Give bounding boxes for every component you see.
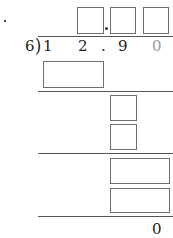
step-2-remainder-blank[interactable]	[110, 95, 137, 121]
subtraction-line-1	[38, 91, 173, 92]
dividend-decimal-point: .	[101, 39, 106, 54]
dividend-digit: 1	[43, 39, 53, 54]
quotient-decimal-point	[105, 27, 108, 30]
step-3-product-blank[interactable]	[110, 188, 170, 213]
quotient-blank-2[interactable]	[110, 7, 136, 34]
step-2-product-blank[interactable]	[110, 124, 137, 150]
quotient-blank-1[interactable]	[77, 7, 104, 34]
subtraction-line-2	[38, 153, 173, 154]
stray-mark	[4, 20, 6, 22]
step-3-remainder-blank[interactable]	[110, 158, 170, 184]
dividend-appended-zero: 0	[152, 39, 162, 54]
final-remainder: 0	[152, 222, 162, 237]
quotient-blank-3[interactable]	[143, 7, 169, 34]
divisor: 6	[25, 39, 35, 54]
division-bracket: )	[35, 37, 41, 54]
subtraction-line-3	[38, 216, 173, 217]
dividend-digit: 9	[118, 39, 128, 54]
step-1-product-blank[interactable]	[43, 61, 104, 88]
dividend-digit: 2	[78, 39, 88, 54]
